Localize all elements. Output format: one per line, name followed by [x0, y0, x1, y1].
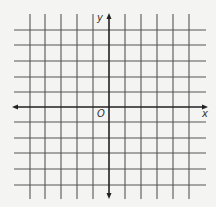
x-axis-label: x: [202, 109, 208, 119]
arrow-down-icon: [107, 193, 112, 199]
arrow-left-icon: [12, 105, 18, 110]
grid-graphic: [0, 0, 216, 207]
origin-label: O: [97, 109, 105, 119]
arrow-up-icon: [107, 13, 112, 19]
coordinate-grid: y O x: [0, 0, 216, 207]
y-axis-label: y: [97, 13, 103, 23]
